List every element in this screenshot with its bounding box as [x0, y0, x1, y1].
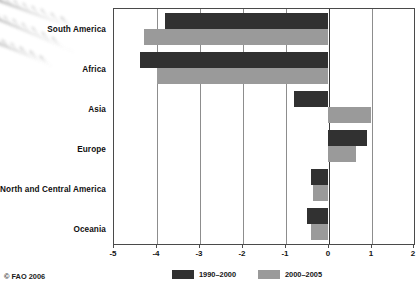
category-label-europe: Europe	[77, 145, 106, 154]
category-label-north-and-central-america: North and Central America	[0, 185, 106, 194]
bar	[328, 146, 356, 162]
bar	[307, 208, 328, 224]
x-tick-label: 0	[326, 249, 330, 258]
plot-area	[113, 8, 415, 245]
legend-swatch-2000-2005	[258, 270, 280, 279]
legend-item-1990-2000: 1990–2000	[172, 270, 236, 279]
bar	[294, 91, 328, 107]
legend-label-1990-2000: 1990–2000	[199, 270, 236, 279]
bar	[328, 107, 371, 123]
copyright-credit: © FAO 2006	[4, 272, 45, 281]
bar	[311, 169, 328, 185]
chart-legend: 1990–2000 2000–2005	[172, 268, 322, 280]
category-label-south-america: South America	[47, 25, 106, 34]
bar	[157, 68, 328, 84]
x-tick-label: -2	[238, 249, 245, 258]
x-tick-label: -1	[281, 249, 288, 258]
bar	[313, 185, 328, 201]
x-tick-label: 1	[369, 249, 373, 258]
zero-axis-line	[329, 9, 330, 244]
gridline	[372, 9, 373, 244]
chart-figure: South America Africa Asia Europe North a…	[0, 0, 418, 289]
bar	[328, 130, 367, 146]
category-axis-labels: South America Africa Asia Europe North a…	[0, 5, 110, 245]
x-tick-label: -5	[109, 249, 116, 258]
category-label-oceania: Oceania	[73, 225, 106, 234]
value-axis: -5 -4 -3 -2 -1 0 1 2	[113, 245, 415, 261]
bar	[144, 29, 328, 45]
legend-item-2000-2005: 2000–2005	[258, 270, 322, 279]
x-tick-label: -4	[152, 249, 159, 258]
bar	[165, 13, 328, 29]
x-tick-label: 2	[411, 249, 415, 258]
legend-swatch-1990-2000	[172, 270, 194, 279]
legend-label-2000-2005: 2000–2005	[285, 270, 322, 279]
bar	[311, 224, 328, 240]
bar	[140, 52, 329, 68]
category-label-asia: Asia	[88, 105, 106, 114]
category-label-africa: Africa	[82, 65, 106, 74]
x-tick-label: -3	[195, 249, 202, 258]
